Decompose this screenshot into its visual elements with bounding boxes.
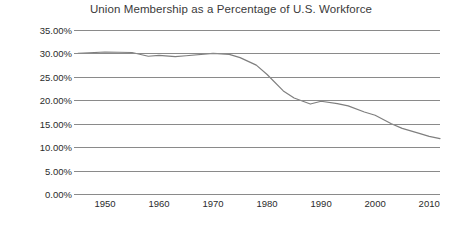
y-axis-tick-label: 30.00%: [0, 48, 72, 59]
y-axis-tick-label: 10.00%: [0, 142, 72, 153]
x-axis-tick-label: 1970: [202, 198, 223, 209]
y-axis-tick-label: 25.00%: [0, 71, 72, 82]
y-axis-tick-mark: [74, 100, 78, 101]
gridline: [78, 53, 440, 54]
gridline: [78, 100, 440, 101]
chart-container: Union Membership as a Percentage of U.S.…: [0, 0, 462, 231]
x-axis-tick-label: 1950: [94, 198, 115, 209]
gridline: [78, 30, 440, 31]
x-axis-tick-label: 1960: [148, 198, 169, 209]
x-axis-labels: 1950196019701980199020002010: [78, 198, 440, 214]
y-axis-tick-mark: [74, 194, 78, 195]
y-axis-tick-mark: [74, 171, 78, 172]
y-axis-tick-label: 20.00%: [0, 95, 72, 106]
y-axis-tick-mark: [74, 30, 78, 31]
y-axis-tick-label: 35.00%: [0, 25, 72, 36]
x-axis-tick-label: 1990: [311, 198, 332, 209]
y-axis-tick-mark: [74, 77, 78, 78]
y-axis-tick-label: 0.00%: [0, 189, 72, 200]
y-axis-tick-mark: [74, 147, 78, 148]
y-axis-tick-mark: [74, 124, 78, 125]
plot-area: [78, 30, 440, 194]
y-axis-tick-label: 15.00%: [0, 118, 72, 129]
line-series-union-membership: [78, 30, 440, 194]
chart-title: Union Membership as a Percentage of U.S.…: [0, 3, 462, 15]
gridline: [78, 194, 440, 195]
gridline: [78, 171, 440, 172]
x-axis-tick-label: 2010: [419, 198, 440, 209]
gridline: [78, 124, 440, 125]
y-axis-tick-label: 5.00%: [0, 165, 72, 176]
x-axis-tick-label: 1980: [257, 198, 278, 209]
gridline: [78, 77, 440, 78]
x-axis-tick-label: 2000: [365, 198, 386, 209]
gridline: [78, 147, 440, 148]
y-axis-tick-mark: [74, 53, 78, 54]
